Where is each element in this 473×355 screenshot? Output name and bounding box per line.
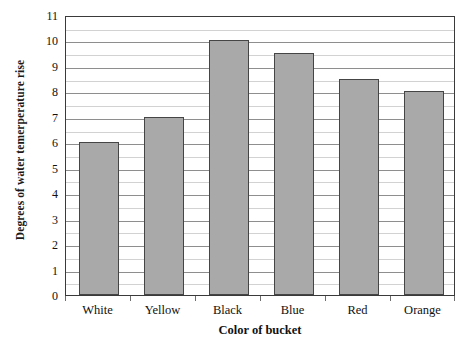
x-axis-tick-marks xyxy=(65,296,455,302)
bar xyxy=(404,91,444,295)
y-axis-tick-label: 8 xyxy=(52,85,58,100)
y-axis-tick-label: 6 xyxy=(52,136,58,151)
x-axis-tick-mark xyxy=(454,296,455,301)
y-axis-tick-label: 3 xyxy=(52,212,58,227)
bar xyxy=(274,53,314,295)
y-axis-tick-label: 2 xyxy=(52,238,58,253)
y-axis-tick-label: 7 xyxy=(52,110,58,125)
x-axis-tick-mark xyxy=(130,296,131,301)
y-axis-tick-label: 11 xyxy=(46,9,58,24)
x-axis-tick-label: Blue xyxy=(281,303,305,318)
bar xyxy=(339,79,379,295)
x-axis-tick-label: White xyxy=(82,303,113,318)
y-axis-tick-labels: 01234567891011 xyxy=(38,16,62,296)
x-axis-tick-label: Yellow xyxy=(145,303,181,318)
plot-area xyxy=(65,16,455,296)
y-axis-tick-label: 1 xyxy=(52,263,58,278)
bar xyxy=(209,40,249,295)
x-axis-tick-mark xyxy=(195,296,196,301)
x-axis-title: Color of bucket xyxy=(65,323,455,338)
y-axis-tick-label: 4 xyxy=(52,187,58,202)
bar xyxy=(79,142,119,295)
x-axis-tick-mark xyxy=(390,296,391,301)
y-axis-title-text: Degrees of water temerperature rise xyxy=(14,60,26,240)
y-axis-title: Degrees of water temerperature rise xyxy=(0,0,40,300)
y-axis-tick-label: 0 xyxy=(52,289,58,304)
x-axis-tick-mark xyxy=(260,296,261,301)
x-axis-tick-label: Black xyxy=(213,303,242,318)
bar-chart: Degrees of water temerperature rise 0123… xyxy=(0,0,473,355)
x-axis-tick-labels: WhiteYellowBlackBlueRedOrange xyxy=(65,303,455,323)
bars-group xyxy=(66,17,454,295)
x-axis-tick-label: Orange xyxy=(404,303,441,318)
x-axis-tick-label: Red xyxy=(347,303,367,318)
x-axis-tick-mark xyxy=(65,296,66,301)
y-axis-tick-label: 10 xyxy=(46,34,58,49)
y-axis-tick-label: 5 xyxy=(52,161,58,176)
x-axis-tick-mark xyxy=(325,296,326,301)
y-axis-tick-label: 9 xyxy=(52,59,58,74)
bar xyxy=(144,117,184,295)
